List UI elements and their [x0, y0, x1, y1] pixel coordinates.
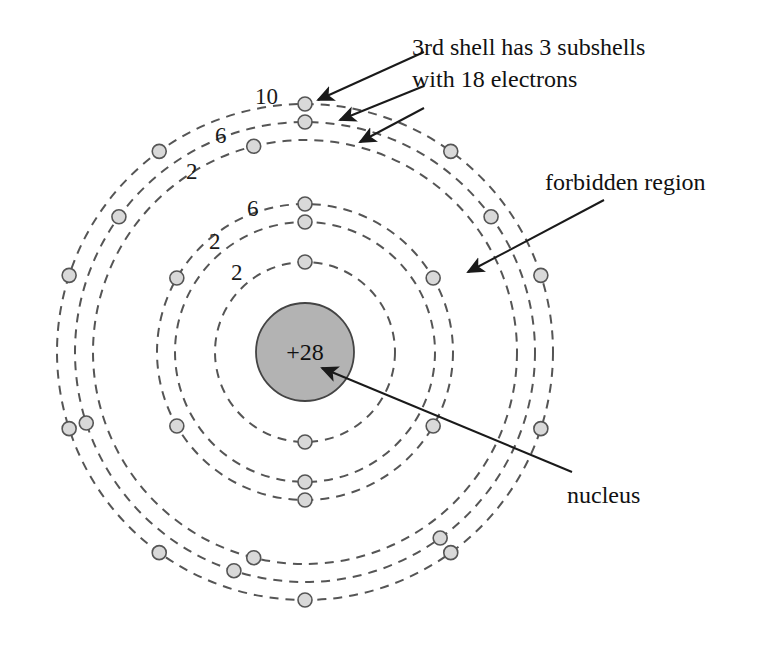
electron-3d-7 — [444, 546, 458, 560]
electron-3d-1 — [298, 97, 312, 111]
electron-3d-10 — [444, 144, 458, 158]
nucleus-text-label: nucleus — [567, 482, 640, 508]
electron-3s-1 — [247, 139, 261, 153]
electron-3d-6 — [298, 593, 312, 607]
atom-diagram-canvas: +28 2262610 3rd shell has 3 subshells wi… — [0, 0, 759, 646]
electron-2p-2 — [170, 271, 184, 285]
subshell-count-3s: 2 — [186, 159, 198, 184]
subshell-count-2p: 6 — [247, 196, 259, 221]
shell3-note-line1: 3rd shell has 3 subshells — [412, 34, 645, 60]
electron-1s-2 — [298, 435, 312, 449]
forbidden-region-label: forbidden region — [545, 169, 706, 195]
electron-1s-1 — [298, 255, 312, 269]
electron-3d-2 — [152, 144, 166, 158]
electron-3d-3 — [62, 268, 76, 282]
subshell-count-3p: 6 — [215, 123, 227, 148]
electron-3p-2 — [112, 210, 126, 224]
electron-2s-1 — [298, 215, 312, 229]
nucleus-charge-label: +28 — [286, 339, 324, 365]
subshell-count-1s: 2 — [231, 260, 243, 285]
subshell-count-3d: 10 — [255, 84, 278, 109]
atom-diagram: +28 2262610 3rd shell has 3 subshells wi… — [0, 0, 759, 646]
electron-3p-5 — [433, 531, 447, 545]
electron-3d-9 — [534, 268, 548, 282]
electron-3p-4 — [227, 564, 241, 578]
subshell-count-2s: 2 — [209, 229, 221, 254]
electron-2p-5 — [426, 419, 440, 433]
nucleus-group: +28 — [256, 303, 354, 401]
shell3-note-line2: with 18 electrons — [412, 66, 577, 92]
electron-2p-4 — [298, 493, 312, 507]
electron-3d-5 — [152, 546, 166, 560]
electron-2s-2 — [298, 475, 312, 489]
electron-3p-6 — [484, 210, 498, 224]
electron-3p-1 — [298, 115, 312, 129]
electron-2p-6 — [426, 271, 440, 285]
electron-2p-1 — [298, 197, 312, 211]
electron-3d-8 — [534, 422, 548, 436]
diagram-background — [0, 0, 759, 646]
electron-3s-2 — [247, 551, 261, 565]
electron-3p-3 — [79, 416, 93, 430]
electron-2p-3 — [170, 419, 184, 433]
electron-3d-4 — [62, 422, 76, 436]
